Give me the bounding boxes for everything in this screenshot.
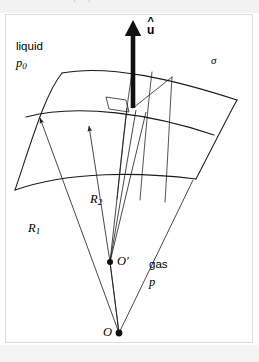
label-liquid-pressure: p0 (16, 57, 27, 71)
surface-patch-group (15, 68, 237, 202)
ray-O-to-patch-a (110, 108, 127, 333)
normal-vector-u-hat (125, 20, 141, 108)
label-radius-R1-symbol: R (28, 221, 36, 235)
bottom-sliver (0, 345, 259, 362)
label-liquid-pressure-subscript: 0 (22, 61, 27, 71)
point-O-dot (116, 330, 123, 337)
normal-vector-head (125, 20, 141, 36)
right-angle-marker (106, 97, 129, 112)
label-radius-R1-subscript: 1 (36, 226, 41, 236)
label-gas: gas (149, 259, 168, 271)
label-gas-pressure: p (149, 276, 155, 289)
label-point-O-prime: O′ (117, 255, 129, 268)
label-radius-R2-symbol: R (90, 192, 98, 206)
patch-meridian-mid (140, 72, 152, 200)
label-radius-R2: R2 (90, 193, 102, 207)
label-normal-vector-u-hat: ^u (147, 24, 154, 36)
radius-line-R1 (40, 118, 119, 333)
radius-ray-R1-outer (119, 180, 193, 333)
normal-vector-hat-accent: ^ (147, 16, 153, 27)
patch-left-edge (15, 73, 62, 190)
patch-bottom-edge (15, 174, 196, 190)
label-liquid: liquid (16, 41, 43, 53)
patch-middle-curve (26, 111, 214, 135)
patch-meridian-right (165, 77, 172, 202)
diagram-canvas (0, 0, 259, 362)
figure-root: a flat interface perpendicular to (0, 0, 259, 362)
patch-chord (133, 77, 172, 108)
label-radius-R2-subscript: 2 (98, 197, 103, 207)
label-radius-R1: R1 (28, 222, 40, 236)
patch-right-edge (196, 100, 237, 179)
point-O-prime-dot (107, 259, 113, 265)
radius-ray-R2-outer (110, 112, 146, 262)
label-surface-tension-sigma: σ (211, 55, 216, 66)
label-point-O: O (103, 326, 112, 339)
